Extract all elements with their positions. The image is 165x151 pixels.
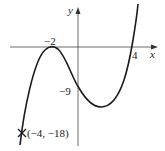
tick-label-neg9: −9: [59, 85, 71, 97]
y-axis-label: y: [67, 4, 73, 16]
cubic-graph: y x −2 4 −9 (−4, −18): [0, 0, 165, 151]
point-label: (−4, −18): [27, 127, 69, 140]
tick-label-4: 4: [132, 49, 138, 61]
cubic-curve: [20, 4, 138, 145]
x-axis-label: x: [149, 48, 155, 60]
y-axis-arrow-icon: [76, 7, 81, 14]
tick-label-neg2: −2: [44, 35, 56, 47]
y-axis: [76, 7, 81, 146]
